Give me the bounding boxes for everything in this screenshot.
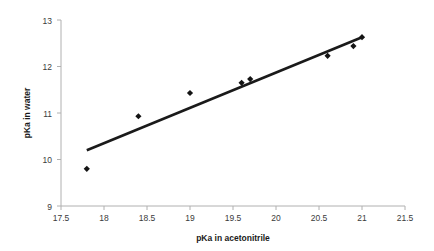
x-tick-label-17-5: 17.5 (53, 213, 70, 223)
x-tick-label-18: 18 (99, 213, 109, 223)
x-tick-label-20: 20 (271, 213, 281, 223)
x-tick-label-18-5: 18.5 (139, 213, 156, 223)
y-tick-label-10: 10 (43, 155, 53, 165)
x-tick-label-21-5: 21.5 (397, 213, 414, 223)
y-tick-label-12: 12 (43, 62, 53, 72)
data-point (350, 43, 356, 49)
data-point-group (84, 34, 365, 172)
data-point (187, 90, 193, 96)
x-tick-label-21: 21 (357, 213, 367, 223)
x-tick-label-19-5: 19.5 (225, 213, 242, 223)
y-tick-label-9: 9 (47, 202, 52, 212)
x-tick-label-20-5: 20.5 (311, 213, 328, 223)
y-axis-title: pKa in water (22, 87, 32, 138)
data-point (84, 166, 90, 172)
x-axis-ticks (61, 206, 405, 210)
scatter-plot: 13 12 11 10 9 17.5 18 18.5 19 19.5 20 20… (0, 0, 434, 251)
x-axis-title: pKa in acetonitrile (196, 233, 270, 243)
x-tick-label-19: 19 (185, 213, 195, 223)
chart-container: 13 12 11 10 9 17.5 18 18.5 19 19.5 20 20… (0, 0, 434, 251)
data-point (135, 113, 141, 119)
y-tick-label-13: 13 (43, 16, 53, 26)
data-point (325, 53, 331, 59)
trendline (87, 37, 362, 150)
y-axis-ticks (57, 20, 61, 206)
y-tick-label-11: 11 (43, 109, 52, 119)
